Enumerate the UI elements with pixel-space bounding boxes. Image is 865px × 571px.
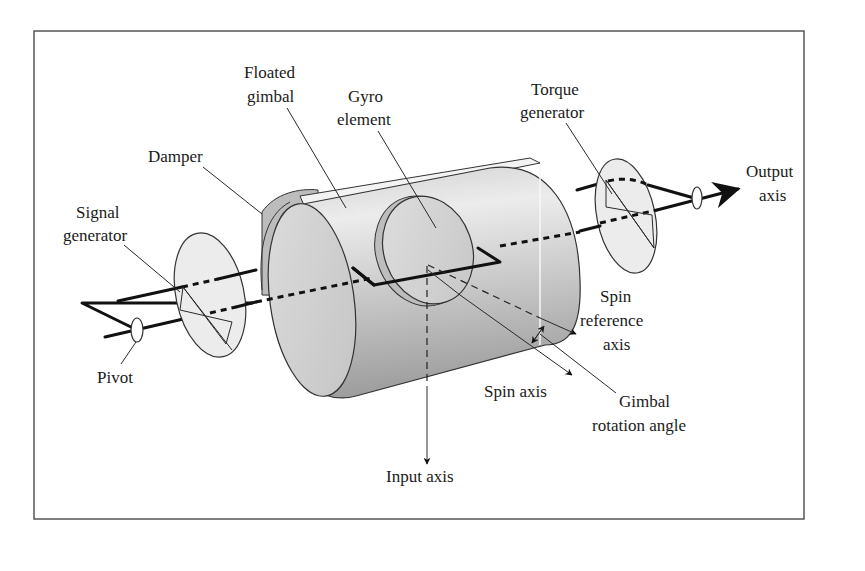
- svg-text:Signal: Signal: [76, 203, 120, 222]
- svg-text:Damper: Damper: [148, 147, 203, 166]
- pivot-ring: [131, 318, 143, 342]
- svg-text:Pivot: Pivot: [97, 368, 133, 387]
- svg-text:reference: reference: [580, 311, 643, 330]
- label-pivot: Pivot: [97, 368, 133, 387]
- label-signal-generator: Signal generator: [63, 203, 128, 245]
- svg-text:Floated: Floated: [244, 63, 295, 82]
- output-pivot-ring: [692, 187, 702, 209]
- signal-generator-disk: [118, 226, 256, 363]
- svg-text:Output: Output: [746, 162, 794, 181]
- label-floated-gimbal: Floated gimbal: [244, 63, 295, 106]
- label-spin-axis: Spin axis: [484, 382, 547, 401]
- svg-text:axis: axis: [603, 335, 630, 354]
- label-torque-generator: Torque generator: [520, 80, 585, 122]
- svg-text:rotation angle: rotation angle: [592, 416, 686, 435]
- gyroscope-diagram: Floated gimbal Gyro element Damper Signa…: [0, 0, 865, 571]
- svg-text:generator: generator: [520, 103, 585, 122]
- svg-text:Input axis: Input axis: [386, 467, 454, 486]
- svg-text:Spin axis: Spin axis: [484, 382, 547, 401]
- svg-text:Spin: Spin: [600, 287, 632, 306]
- svg-text:generator: generator: [63, 226, 128, 245]
- label-spin-reference-axis: Spin reference axis: [580, 287, 643, 354]
- label-gimbal-rotation-angle: Gimbal rotation angle: [592, 392, 686, 435]
- svg-text:axis: axis: [759, 186, 786, 205]
- torque-generator-disk: [577, 153, 666, 279]
- svg-text:Torque: Torque: [531, 80, 579, 99]
- svg-text:element: element: [337, 110, 391, 129]
- label-output-axis: Output axis: [746, 162, 794, 205]
- label-input-axis: Input axis: [386, 467, 454, 486]
- label-damper: Damper: [148, 147, 203, 166]
- svg-text:Gyro: Gyro: [348, 87, 383, 106]
- svg-text:Gimbal: Gimbal: [619, 392, 670, 411]
- label-gyro-element: Gyro element: [337, 87, 391, 129]
- output-axis: [648, 185, 738, 210]
- svg-text:gimbal: gimbal: [247, 87, 294, 106]
